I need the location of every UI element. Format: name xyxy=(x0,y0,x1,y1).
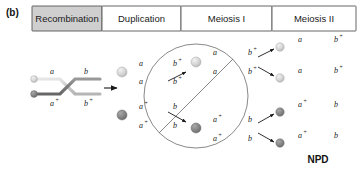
product-1-right-label-sup: + xyxy=(339,33,343,39)
duplication-bottom-label-3-sup: + xyxy=(144,119,148,125)
meiosis-one-top-label-3: a xyxy=(213,67,217,76)
figure-letter: (b) xyxy=(6,7,19,18)
product-4-left-label: a xyxy=(298,131,302,140)
meiosis-one-top-label-4: b xyxy=(248,67,252,76)
meiosis-one-bottom-label-3-sup: + xyxy=(218,132,222,138)
product-3-left-label: a xyxy=(298,100,302,109)
duplication-top-label-2-sup: + xyxy=(178,57,182,63)
recombination-label-bottom-left-sup: + xyxy=(55,97,59,103)
duplication-bottom-label-1: a xyxy=(139,102,143,111)
meiosis-npd-diagram: (b) Recombination Duplication Meiosis I … xyxy=(0,0,362,171)
meiosis-one-top-label-2: b xyxy=(248,48,252,57)
recombination-label-bottom-left: a xyxy=(50,99,54,108)
recombination-label-top-right: b xyxy=(84,67,88,76)
recombination-label-top-left: a xyxy=(50,67,54,76)
meiosis-one-top-label-4-sup: + xyxy=(253,65,257,71)
meiosis-one-bottom-label-3: a xyxy=(213,134,217,143)
stage-header-bar: Recombination Duplication Meiosis I Meio… xyxy=(32,6,356,31)
meiosis-one-top-label-1: a xyxy=(213,48,217,57)
duplication-bottom-label-2: b xyxy=(173,102,177,111)
meiosis-one-bottom-label-1: a xyxy=(213,115,217,124)
product-4-left-label-sup: + xyxy=(303,129,307,135)
product-1-right-label: b xyxy=(334,35,338,44)
npd-result-label: NPD xyxy=(307,154,328,165)
product-2-right-label-sup: + xyxy=(339,64,343,70)
product-3-right-label: b xyxy=(334,100,338,109)
meiosis-one-bottom-label-1-sup: + xyxy=(218,113,222,119)
duplication-top-label-1: a xyxy=(139,59,143,68)
product-2-left-label: a xyxy=(298,66,302,75)
centromere-dark-recombination xyxy=(31,91,38,98)
duplication-top-label-3: a xyxy=(139,77,143,86)
product-1-left-label: a xyxy=(298,35,302,44)
stage-header-label-meiosis-two: Meiosis II xyxy=(294,13,334,24)
centromere-light-recombination xyxy=(31,76,38,83)
duplication-top-label-2: b xyxy=(173,59,177,68)
stage-header-label-meiosis-one: Meiosis I xyxy=(208,13,245,24)
duplication-bottom-label-4: b xyxy=(173,121,177,130)
duplication-bottom-label-3: a xyxy=(139,121,143,130)
recombination-label-bottom-right: b xyxy=(84,99,88,108)
meiosis-one-bottom-label-4: b xyxy=(248,134,252,143)
product-3-left-label-sup: + xyxy=(303,98,307,104)
meiosis-one-bottom-label-2: b xyxy=(248,115,252,124)
meiosis-one-top-label-2-sup: + xyxy=(253,46,257,52)
stage-header-label-duplication: Duplication xyxy=(118,13,165,24)
duplication-bottom-label-1-sup: + xyxy=(144,100,148,106)
product-4-right-label: b xyxy=(334,131,338,140)
stage-header-label-recombination: Recombination xyxy=(35,13,98,24)
recombination-label-bottom-right-sup: + xyxy=(89,97,93,103)
product-2-right-label: b xyxy=(334,66,338,75)
